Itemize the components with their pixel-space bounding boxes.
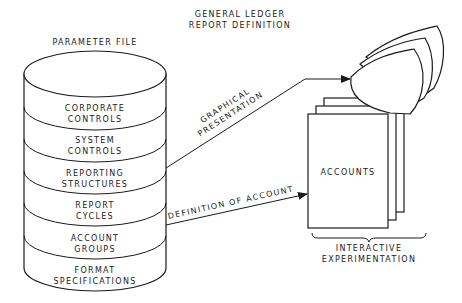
layer-label: CONTROLS (68, 115, 123, 124)
layer-label: REPORT (75, 201, 114, 210)
parameter-file-label: PARAMETER FILE (52, 38, 137, 47)
layer-label: REPORTING (66, 169, 124, 178)
cylinder-top (24, 51, 166, 97)
interactive-label-line-1: INTERACTIVE (336, 244, 403, 253)
layer-label: CORPORATE (65, 104, 125, 113)
layer-label: FORMAT (75, 266, 116, 275)
interactive-experimentation-group: INTERACTIVE EXPERIMENTATION (312, 233, 426, 264)
layer-label: ACCOUNT (71, 234, 120, 243)
interactive-label-line-2: EXPERIMENTATION (322, 255, 416, 264)
definition-of-account-arrow: DEFINITION OF ACCOUNT (166, 184, 307, 225)
layer-label: CYCLES (76, 212, 114, 221)
brace-icon (312, 233, 426, 242)
layer-label: GROUPS (74, 245, 116, 254)
definition-label: DEFINITION OF ACCOUNT (167, 184, 295, 220)
display-screens-stack (351, 26, 444, 114)
diagram-canvas: GENERAL LEDGER REPORT DEFINITION PARAMET… (0, 0, 462, 303)
title-line-2: REPORT DEFINITION (189, 21, 291, 30)
parameter-file-cylinder: PARAMETER FILE CORPORATE CONTROLS SYSTEM… (24, 38, 166, 291)
layer-label: STRUCTURES (62, 180, 128, 189)
accounts-label: ACCOUNTS (320, 168, 375, 177)
layer-label: CONTROLS (68, 147, 123, 156)
layer-label: SPECIFICATIONS (53, 277, 136, 286)
diagram-title: GENERAL LEDGER REPORT DEFINITION (189, 10, 291, 30)
accounts-document-stack: ACCOUNTS (308, 98, 404, 228)
layer-label: SYSTEM (75, 136, 115, 145)
title-line-1: GENERAL LEDGER (195, 10, 286, 19)
